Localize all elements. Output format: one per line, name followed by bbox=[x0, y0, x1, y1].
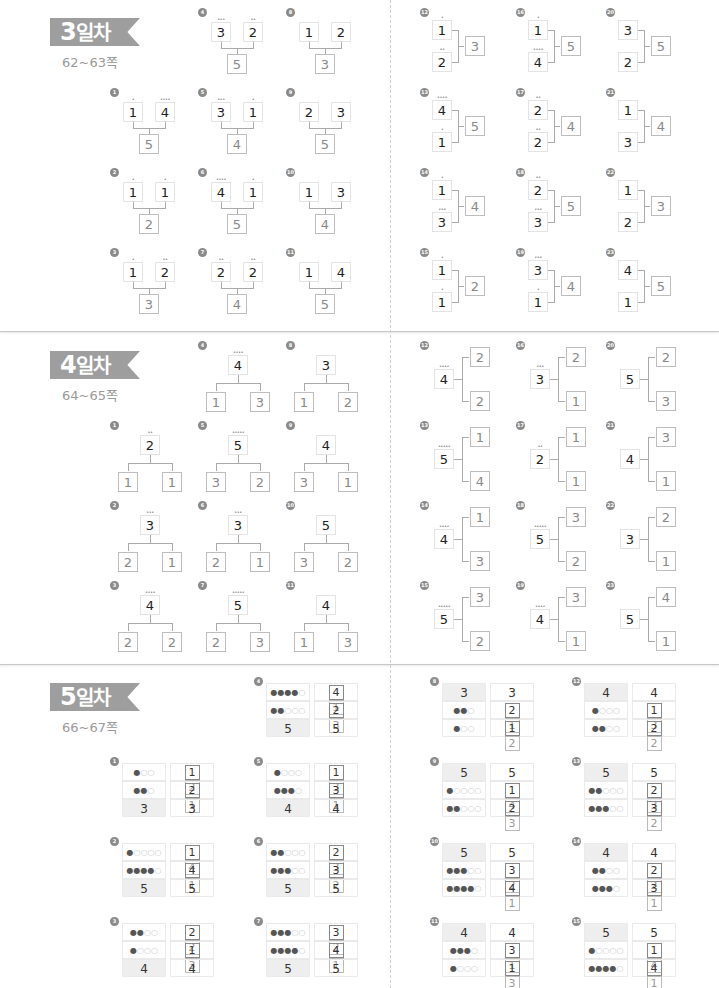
part-box[interactable]: 1 bbox=[294, 632, 314, 652]
part-box[interactable]: 1 bbox=[162, 552, 182, 572]
part-box[interactable]: 1 bbox=[566, 471, 586, 491]
part-box[interactable]: 3 bbox=[338, 632, 358, 652]
part-box[interactable]: 3 bbox=[250, 392, 270, 412]
part-box[interactable]: 2 bbox=[118, 552, 138, 572]
answer-box[interactable]: 3 bbox=[329, 863, 344, 878]
sum-answer-box[interactable]: 5 bbox=[651, 276, 671, 296]
part-box[interactable]: 3 bbox=[294, 552, 314, 572]
answer-box[interactable]: 1 bbox=[505, 783, 520, 798]
sum-answer-box[interactable]: 5 bbox=[139, 134, 159, 154]
part-box[interactable]: 3 bbox=[566, 507, 586, 527]
sum-answer-box[interactable]: 3 bbox=[139, 294, 159, 314]
answer-box[interactable]: 2 bbox=[505, 703, 520, 718]
part-box[interactable]: 3 bbox=[470, 551, 490, 571]
answer-box[interactable]: 1 bbox=[647, 943, 662, 958]
sum-answer-box[interactable]: 5 bbox=[315, 134, 335, 154]
answer-box[interactable]: 2 bbox=[647, 816, 662, 831]
part-box[interactable]: 1 bbox=[566, 631, 586, 651]
part-box[interactable]: 2 bbox=[470, 631, 490, 651]
part-box[interactable]: 2 bbox=[656, 507, 676, 527]
answer-box[interactable]: 2 bbox=[647, 783, 662, 798]
answer-box[interactable]: 4 bbox=[185, 863, 200, 878]
part-box[interactable]: 4 bbox=[656, 587, 676, 607]
part-box[interactable]: 2 bbox=[338, 552, 358, 572]
answer-box[interactable]: 3 bbox=[647, 881, 662, 896]
sum-answer-box[interactable]: 5 bbox=[651, 36, 671, 56]
sum-answer-box[interactable]: 4 bbox=[651, 116, 671, 136]
part-box[interactable]: 3 bbox=[656, 427, 676, 447]
sum-answer-box[interactable]: 4 bbox=[227, 294, 247, 314]
answer-box[interactable]: 1 bbox=[185, 765, 200, 780]
sum-answer-box[interactable]: 3 bbox=[465, 36, 485, 56]
part-box[interactable]: 2 bbox=[470, 347, 490, 367]
part-box[interactable]: 1 bbox=[162, 472, 182, 492]
answer-box[interactable]: 4 bbox=[329, 943, 344, 958]
answer-box[interactable]: 2 bbox=[647, 736, 662, 751]
part-box[interactable]: 3 bbox=[566, 587, 586, 607]
answer-box[interactable]: 3 bbox=[329, 925, 344, 940]
part-box[interactable]: 3 bbox=[250, 632, 270, 652]
sum-answer-box[interactable]: 4 bbox=[465, 196, 485, 216]
answer-box[interactable]: 3 bbox=[647, 801, 662, 816]
part-box[interactable]: 2 bbox=[566, 551, 586, 571]
part-box[interactable]: 1 bbox=[656, 471, 676, 491]
part-box[interactable]: 3 bbox=[656, 391, 676, 411]
answer-box[interactable]: 3 bbox=[505, 943, 520, 958]
answer-box[interactable]: 3 bbox=[505, 863, 520, 878]
part-box[interactable]: 1 bbox=[118, 472, 138, 492]
part-box[interactable]: 2 bbox=[338, 392, 358, 412]
sum-answer-box[interactable]: 2 bbox=[139, 214, 159, 234]
part-box[interactable]: 3 bbox=[294, 472, 314, 492]
answer-box[interactable]: 1 bbox=[505, 721, 520, 736]
part-box[interactable]: 1 bbox=[206, 392, 226, 412]
answer-box[interactable]: 4 bbox=[647, 961, 662, 976]
answer-box[interactable]: 3 bbox=[505, 976, 520, 988]
answer-box[interactable]: 1 bbox=[185, 845, 200, 860]
sum-answer-box[interactable]: 5 bbox=[227, 54, 247, 74]
sum-answer-box[interactable]: 5 bbox=[561, 36, 581, 56]
answer-box[interactable]: 3 bbox=[329, 783, 344, 798]
part-box[interactable]: 1 bbox=[250, 552, 270, 572]
part-box[interactable]: 1 bbox=[566, 427, 586, 447]
part-box[interactable]: 2 bbox=[250, 472, 270, 492]
sum-answer-box[interactable]: 5 bbox=[465, 116, 485, 136]
part-box[interactable]: 1 bbox=[656, 551, 676, 571]
answer-box[interactable]: 2 bbox=[185, 925, 200, 940]
answer-box[interactable]: 4 bbox=[505, 881, 520, 896]
answer-box[interactable]: 1 bbox=[185, 943, 200, 958]
sum-answer-box[interactable]: 3 bbox=[315, 54, 335, 74]
part-box[interactable]: 2 bbox=[206, 552, 226, 572]
sum-answer-box[interactable]: 4 bbox=[561, 116, 581, 136]
part-box[interactable]: 1 bbox=[470, 507, 490, 527]
answer-box[interactable]: 3 bbox=[505, 816, 520, 831]
part-box[interactable]: 3 bbox=[206, 472, 226, 492]
sum-answer-box[interactable]: 4 bbox=[315, 214, 335, 234]
answer-box[interactable]: 2 bbox=[329, 703, 344, 718]
part-box[interactable]: 2 bbox=[162, 632, 182, 652]
answer-box[interactable]: 1 bbox=[505, 961, 520, 976]
sum-answer-box[interactable]: 5 bbox=[227, 214, 247, 234]
answer-box[interactable]: 2 bbox=[505, 736, 520, 751]
part-box[interactable]: 2 bbox=[118, 632, 138, 652]
part-box[interactable]: 4 bbox=[470, 471, 490, 491]
answer-box[interactable]: 2 bbox=[185, 783, 200, 798]
answer-box[interactable]: 2 bbox=[647, 863, 662, 878]
answer-box[interactable]: 1 bbox=[505, 896, 520, 911]
answer-box[interactable]: 4 bbox=[329, 685, 344, 700]
sum-answer-box[interactable]: 5 bbox=[561, 196, 581, 216]
part-box[interactable]: 1 bbox=[566, 391, 586, 411]
sum-answer-box[interactable]: 3 bbox=[651, 196, 671, 216]
answer-box[interactable]: 2 bbox=[505, 801, 520, 816]
part-box[interactable]: 2 bbox=[206, 632, 226, 652]
part-box[interactable]: 3 bbox=[470, 587, 490, 607]
sum-answer-box[interactable]: 4 bbox=[227, 134, 247, 154]
sum-answer-box[interactable]: 4 bbox=[561, 276, 581, 296]
answer-box[interactable]: 2 bbox=[647, 721, 662, 736]
part-box[interactable]: 2 bbox=[656, 347, 676, 367]
sum-answer-box[interactable]: 2 bbox=[465, 276, 485, 296]
sum-answer-box[interactable]: 5 bbox=[315, 294, 335, 314]
answer-box[interactable]: 1 bbox=[647, 896, 662, 911]
part-box[interactable]: 1 bbox=[656, 631, 676, 651]
answer-box[interactable]: 1 bbox=[647, 976, 662, 988]
part-box[interactable]: 2 bbox=[470, 391, 490, 411]
